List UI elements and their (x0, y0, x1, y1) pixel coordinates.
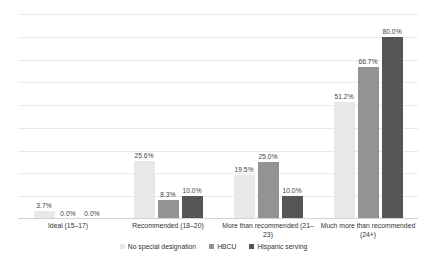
legend-item[interactable]: Hispanic serving (249, 243, 307, 250)
bar-slot: 19.5% (234, 14, 255, 219)
plot-area: 3.7%0.0%0.0%25.6%8.3%10.0%19.5%25.0%10.0… (18, 14, 418, 219)
bar-slot: 8.3% (158, 14, 179, 219)
bar[interactable] (334, 102, 355, 219)
chart-legend: No special designationHBCUHispanic servi… (0, 243, 427, 250)
legend-label: No special designation (128, 243, 196, 250)
bar-value-label: 3.7% (36, 202, 51, 209)
bar-slot: 25.6% (134, 14, 155, 219)
bar-value-label: 10.0% (282, 187, 301, 194)
category-axis: Ideal (15–17)Recommended (18–20)More tha… (18, 221, 418, 239)
legend-item[interactable]: HBCU (209, 243, 236, 250)
bar-slot: 10.0% (282, 14, 303, 219)
bar-value-label: 8.3% (160, 191, 175, 198)
legend-swatch-icon (249, 244, 254, 249)
bar[interactable] (134, 161, 155, 219)
grouped-bar-chart: 3.7%0.0%0.0%25.6%8.3%10.0%19.5%25.0%10.0… (0, 0, 427, 263)
bar-groups: 3.7%0.0%0.0%25.6%8.3%10.0%19.5%25.0%10.0… (18, 14, 418, 219)
legend-label: Hispanic serving (257, 243, 307, 250)
bar-value-label: 0.0% (60, 210, 75, 217)
bar-value-label: 10.0% (182, 187, 201, 194)
bar[interactable] (282, 196, 303, 219)
category-tick-label: Recommended (18–20) (118, 221, 218, 239)
bar-value-label: 19.5% (234, 166, 253, 173)
bar[interactable] (234, 175, 255, 219)
bar-slot: 10.0% (182, 14, 203, 219)
bar-group: 25.6%8.3%10.0% (118, 14, 218, 219)
legend-swatch-icon (120, 244, 125, 249)
legend-label: HBCU (217, 243, 236, 250)
bar-value-label: 80.0% (382, 28, 401, 35)
bar[interactable] (258, 162, 279, 219)
bar-slot: 66.7% (358, 14, 379, 219)
bar-group: 3.7%0.0%0.0% (18, 14, 118, 219)
bar[interactable] (158, 200, 179, 219)
category-tick-label: More than recommended (21–23) (218, 221, 318, 239)
category-tick-label: Ideal (15–17) (18, 221, 118, 239)
bar-value-label: 51.2% (334, 93, 353, 100)
x-axis-line (18, 218, 418, 219)
legend-item[interactable]: No special designation (120, 243, 196, 250)
bar-value-label: 25.6% (134, 152, 153, 159)
bar[interactable] (182, 196, 203, 219)
bar-slot: 80.0% (382, 14, 403, 219)
bar-value-label: 25.0% (258, 153, 277, 160)
bar-slot: 51.2% (334, 14, 355, 219)
bar-slot: 0.0% (82, 14, 103, 219)
bar[interactable] (382, 37, 403, 219)
bar-value-label: 66.7% (358, 58, 377, 65)
bar-slot: 0.0% (58, 14, 79, 219)
bar-slot: 3.7% (34, 14, 55, 219)
bar-slot: 25.0% (258, 14, 279, 219)
legend-swatch-icon (209, 244, 214, 249)
bar-group: 51.2%66.7%80.0% (318, 14, 418, 219)
bar-value-label: 0.0% (84, 210, 99, 217)
category-tick-label: Much more than recommended (24+) (318, 221, 418, 239)
bar[interactable] (358, 67, 379, 219)
bar-group: 19.5%25.0%10.0% (218, 14, 318, 219)
